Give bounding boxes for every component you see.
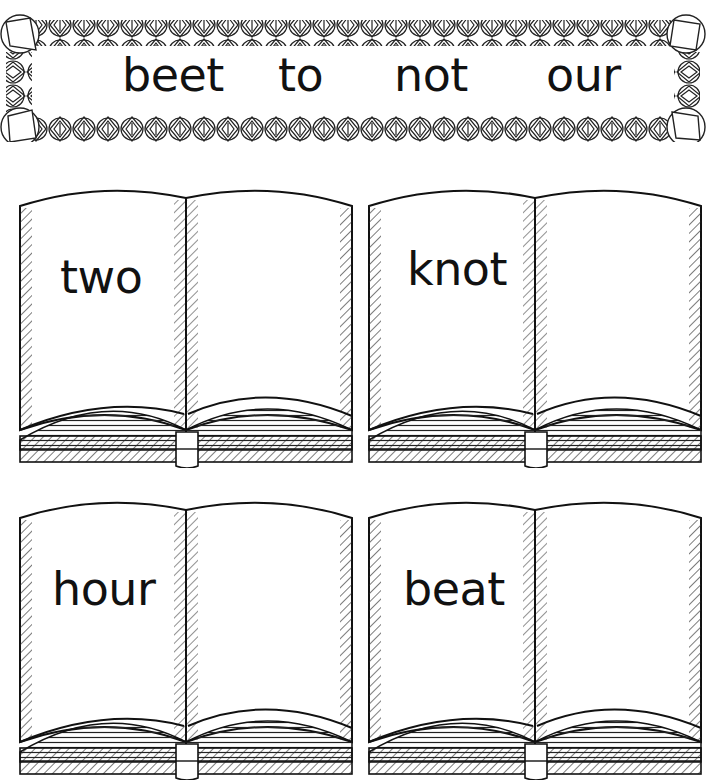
book-card: knot xyxy=(355,168,705,468)
word-bank-word: not xyxy=(394,52,468,98)
book-word: hour xyxy=(52,566,155,612)
book-card: hour xyxy=(6,480,356,780)
word-bank-word: beet xyxy=(122,52,224,98)
word-bank: beet to not our xyxy=(40,52,666,116)
book-card: two xyxy=(6,168,356,468)
word-bank-word: to xyxy=(278,52,323,98)
book-word: two xyxy=(60,254,142,300)
book-word: knot xyxy=(407,246,507,292)
word-bank-banner: beet to not our xyxy=(0,12,706,142)
book-word: beat xyxy=(403,566,505,612)
word-bank-word: our xyxy=(546,52,621,98)
book-card: beat xyxy=(355,480,705,780)
